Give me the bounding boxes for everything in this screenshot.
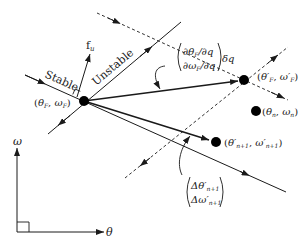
omega-axis-label: ω	[13, 135, 22, 148]
current-point-dot	[251, 106, 261, 116]
partial-derivative-label: ∂θF/∂q ∂ωF/∂q δq	[178, 43, 234, 72]
axes: ω θ	[13, 135, 113, 239]
svg-text:Δω′n+1: Δω′n+1	[190, 194, 221, 206]
unstable-label: Unstable	[90, 46, 137, 88]
svg-text:∂θF/∂q: ∂θF/∂q	[183, 46, 213, 58]
shift-pointer	[155, 66, 165, 89]
svg-text:δq: δq	[222, 53, 234, 64]
svg-text:∂ωF/∂q: ∂ωF/∂q	[183, 60, 215, 72]
stable-label: Stable	[43, 68, 81, 94]
theta-axis-label: θ	[106, 226, 113, 239]
current-point-label: (θn, ωn)	[262, 106, 298, 118]
fixed-point-label: (θF, ωF)	[34, 97, 71, 109]
next-point-label: (θ′n+1, ω′n+1)	[224, 137, 282, 149]
shifted-fixed-point-label: (θ′F, ω′F)	[257, 71, 298, 83]
svg-text:Δθ′n+1: Δθ′n+1	[190, 180, 219, 192]
diagram-canvas: Stable Unstable fu (θF, ωF) (θ′F, ω′F) (…	[0, 0, 304, 246]
stable-manifold	[25, 75, 286, 192]
fu-label: fu	[86, 39, 95, 53]
fixed-point-dot	[79, 96, 89, 106]
delta-pointer	[179, 136, 190, 175]
delta-vector-label: Δθ′n+1 Δω′n+1	[187, 177, 223, 207]
next-iterate-vector	[84, 101, 209, 140]
next-point-dot	[211, 137, 221, 147]
shifted-fixed-point-dot	[239, 75, 249, 85]
axes-right-angle-mark	[17, 222, 29, 232]
